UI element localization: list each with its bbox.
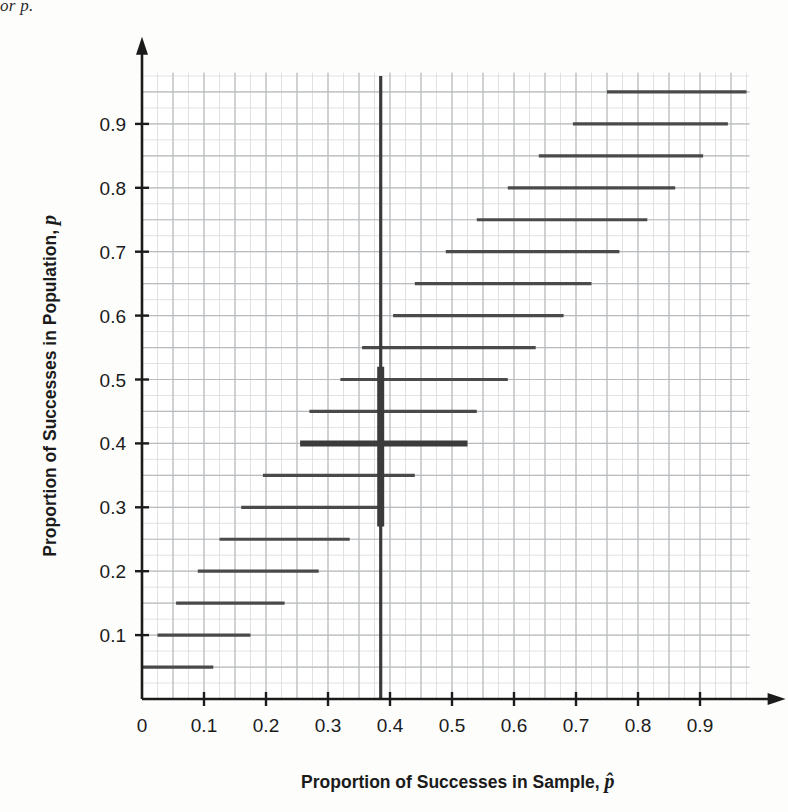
x-axis-tick-label: 0 <box>137 715 148 736</box>
x-axis-arrowhead <box>768 693 786 705</box>
x-axis-tick-label: 0.1 <box>191 715 217 736</box>
y-axis-arrowhead <box>136 37 148 55</box>
x-axis-tick-label: 0.9 <box>687 715 713 736</box>
y-axis-tick-label: 0.9 <box>100 114 126 135</box>
confidence-interval-chart: 00.10.20.30.40.50.60.70.80.90.10.20.30.4… <box>0 0 788 812</box>
y-axis-tick-label: 0.7 <box>100 242 126 263</box>
y-axis-tick-label: 0.6 <box>100 306 126 327</box>
x-axis-tick-label: 0.2 <box>253 715 279 736</box>
y-axis-tick-label: 0.1 <box>100 625 126 646</box>
y-axis-title: Proportion of Successes in Population, p <box>38 215 61 557</box>
plot-background <box>142 73 750 699</box>
chart-svg: 00.10.20.30.40.50.60.70.80.90.10.20.30.4… <box>0 0 788 812</box>
y-axis-tick-label: 0.5 <box>100 370 126 391</box>
y-axis-tick-label: 0.2 <box>100 561 126 582</box>
x-axis-tick-label: 0.7 <box>563 715 589 736</box>
y-axis-tick-label: 0.4 <box>100 433 127 454</box>
x-axis-tick-label: 0.5 <box>439 715 465 736</box>
x-axis-tick-label: 0.3 <box>315 715 341 736</box>
x-axis-title: Proportion of Successes in Sample, p̂ <box>301 770 614 793</box>
y-axis-tick-label: 0.3 <box>100 497 126 518</box>
x-axis-tick-label: 0.6 <box>501 715 527 736</box>
x-axis-tick-label: 0.8 <box>625 715 651 736</box>
y-axis-tick-label: 0.8 <box>100 178 126 199</box>
x-axis-tick-label: 0.4 <box>377 715 404 736</box>
